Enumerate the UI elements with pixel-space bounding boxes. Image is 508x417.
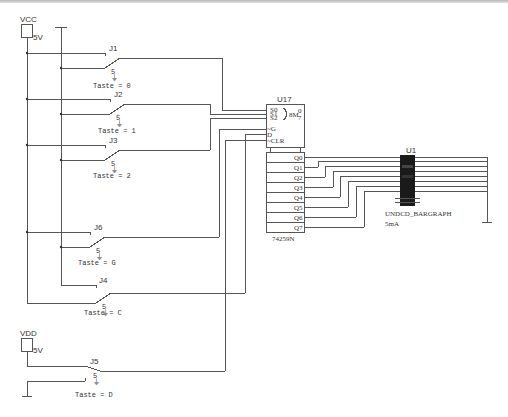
j4-label: J4 bbox=[99, 276, 108, 285]
svg-text:Q7: Q7 bbox=[294, 224, 303, 232]
u1-bargraph[interactable]: U1 UNDCD_BARGRAPH 5mA bbox=[385, 146, 452, 228]
svg-text:Q1: Q1 bbox=[294, 164, 303, 172]
schematic-canvas[interactable]: VCC 5V J1 5⏚ Taste = 0 J2 5⏚ Taste = 1 J… bbox=[0, 0, 508, 417]
j5-key: Taste = D bbox=[75, 391, 113, 399]
svg-text:⏚: ⏚ bbox=[93, 378, 100, 386]
switch-j5[interactable]: J5 5⏚ Taste = D bbox=[22, 351, 225, 399]
j1-label: J1 bbox=[109, 44, 118, 53]
u1-ref: U1 bbox=[406, 146, 417, 155]
u1-current: 5mA bbox=[385, 220, 399, 228]
svg-text:~CLR: ~CLR bbox=[267, 137, 285, 145]
svg-text:Q4: Q4 bbox=[294, 194, 303, 202]
u17-part: 74259N bbox=[272, 235, 295, 243]
vdd-label: VDD bbox=[20, 329, 37, 338]
switch-j1[interactable]: J1 5⏚ Taste = 0 bbox=[26, 44, 222, 90]
vdd-value: 5V bbox=[33, 346, 43, 355]
j1-key: Taste = 0 bbox=[93, 82, 131, 90]
vdd-source[interactable]: VDD 5V bbox=[20, 329, 43, 355]
u17-demux[interactable]: U17 S0 S1 S2 8M 0 7 ~G D ~CLR Q0 Q1 Q2 Q… bbox=[266, 95, 304, 243]
j6-key: Taste = G bbox=[78, 259, 116, 267]
svg-text:Q0: Q0 bbox=[294, 154, 303, 162]
switch-j4[interactable]: J4 5⏚ Taste = C bbox=[27, 276, 245, 317]
svg-text:S2: S2 bbox=[270, 114, 278, 122]
switch-j2[interactable]: J2 5⏚ Taste = 1 bbox=[26, 90, 210, 135]
svg-text:⏚: ⏚ bbox=[111, 74, 118, 82]
vcc-label: VCC bbox=[20, 15, 37, 24]
svg-text:7: 7 bbox=[298, 114, 302, 122]
j2-label: J2 bbox=[114, 90, 123, 99]
j4-key: Taste = C bbox=[84, 309, 122, 317]
svg-text:Q2: Q2 bbox=[294, 174, 303, 182]
svg-text:Q3: Q3 bbox=[294, 184, 303, 192]
switch-j3[interactable]: J3 5⏚ Taste = 2 bbox=[26, 136, 210, 180]
svg-text:Q5: Q5 bbox=[294, 204, 303, 212]
j5-label: J5 bbox=[90, 357, 99, 366]
vcc-value: 5V bbox=[33, 33, 43, 42]
svg-text:Q6: Q6 bbox=[294, 214, 303, 222]
j6-label: J6 bbox=[94, 223, 103, 232]
j3-key: Taste = 2 bbox=[93, 172, 131, 180]
j3-label: J3 bbox=[109, 136, 118, 145]
u1-part: UNDCD_BARGRAPH bbox=[385, 210, 452, 218]
vcc-source[interactable]: VCC 5V bbox=[20, 15, 43, 42]
switch-j6[interactable]: J6 5⏚ Taste = G bbox=[26, 223, 219, 267]
u17-ref: U17 bbox=[277, 95, 292, 104]
j2-key: Taste = 1 bbox=[98, 127, 136, 135]
